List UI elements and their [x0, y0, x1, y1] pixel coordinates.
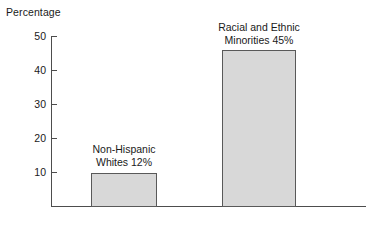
bar-label-line1: Non-Hispanic [74, 143, 174, 156]
y-axis-line [51, 36, 52, 207]
y-tick-label-20: 20 [18, 133, 46, 144]
y-tick-mark-20 [51, 138, 57, 139]
y-tick-label-30-wrap: 30 [14, 99, 46, 110]
bar-non-hispanic-whites [91, 173, 157, 207]
bar-label-line1: Racial and Ethnic [199, 21, 319, 34]
y-axis-title: Percentage [6, 6, 61, 19]
y-tick-label-10-wrap: 10 [14, 167, 46, 178]
y-tick-label-50: 50 [18, 31, 46, 42]
bar-label-line2: Minorities 45% [199, 34, 319, 47]
bar-label-non-hispanic-whites: Non-Hispanic Whites 12% [74, 143, 174, 168]
y-tick-mark-10 [51, 172, 57, 173]
bar-racial-and-ethnic-minorities [222, 50, 296, 207]
y-tick-mark-50 [51, 36, 57, 37]
y-tick-label-40: 40 [18, 65, 46, 76]
bar-label-racial-and-ethnic-minorities: Racial and Ethnic Minorities 45% [199, 21, 319, 46]
y-tick-label-10: 10 [18, 167, 46, 178]
bar-label-line2: Whites 12% [74, 156, 174, 169]
bar-chart: Percentage 50 40 30 20 10 Non-Hispanic W… [0, 0, 366, 229]
y-tick-mark-30 [51, 104, 57, 105]
y-tick-label-40-wrap: 40 [14, 65, 46, 76]
y-tick-label-30: 30 [18, 99, 46, 110]
y-tick-label-20-wrap: 20 [14, 133, 46, 144]
y-tick-label-50-wrap: 50 [14, 31, 46, 42]
y-tick-mark-40 [51, 70, 57, 71]
